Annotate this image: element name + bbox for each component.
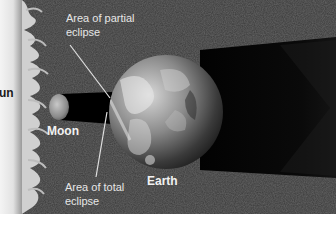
partial-eclipse-label-line1: Area of partial	[66, 11, 134, 25]
partial-eclipse-label-line2: eclipse	[66, 25, 100, 39]
total-eclipse-label-line1: Area of total	[65, 180, 124, 194]
page-margin	[0, 214, 336, 230]
moon-graphic	[49, 94, 69, 120]
moon-label: Moon	[47, 124, 79, 138]
eclipse-diagram: un Moon Earth Area of partial eclipse Ar…	[0, 0, 336, 214]
total-eclipse-label-line2: eclipse	[65, 194, 99, 208]
earth-graphic	[109, 55, 223, 169]
sun-label: un	[0, 86, 14, 100]
earth-label: Earth	[147, 174, 178, 188]
